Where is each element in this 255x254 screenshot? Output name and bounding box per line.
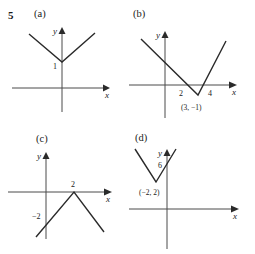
x-axis-label: x [231, 87, 236, 97]
y-axis-label: y [36, 151, 41, 161]
tick-label-1: 1 [53, 62, 57, 71]
x-axis-label: x [232, 211, 237, 221]
tick-label-2: 2 [71, 180, 75, 189]
panel-d-graph: x y 6 (−2, 2) [127, 127, 254, 254]
x-axis-label: x [104, 90, 109, 100]
tick-label-minus-2: −2 [32, 212, 41, 221]
tick-label-2: 2 [179, 89, 183, 98]
curve-b [141, 39, 226, 95]
point-label-vertex: (−2, 2) [139, 188, 160, 197]
y-axis-arrow-icon [164, 149, 171, 156]
curve-d [135, 149, 176, 182]
figure-page: 5 (a) x y 1 (b) [0, 0, 255, 254]
panel-d: (d) x y 6 (−2, 2) [127, 127, 254, 254]
point-label-vertex: (3, −1) [181, 103, 202, 112]
y-axis-arrow-icon [162, 31, 169, 38]
tick-label-6: 6 [158, 161, 162, 170]
panel-b-graph: x y 2 4 (3, −1) [127, 0, 254, 127]
y-axis-label: y [52, 26, 57, 36]
y-axis-label: y [157, 148, 162, 158]
x-axis-label: x [105, 194, 110, 204]
panel-b: (b) x y 2 4 (3, −1) [127, 0, 254, 127]
tick-label-4: 4 [208, 89, 212, 98]
panel-a: (a) x y 1 [0, 0, 127, 127]
y-axis-arrow-icon [59, 27, 66, 34]
panel-c-graph: x y 2 −2 [0, 127, 127, 254]
y-axis-label: y [155, 30, 160, 40]
y-axis-arrow-icon [43, 152, 50, 159]
panel-a-graph: x y 1 [0, 0, 127, 127]
panel-c: (c) x y 2 −2 [0, 127, 127, 254]
